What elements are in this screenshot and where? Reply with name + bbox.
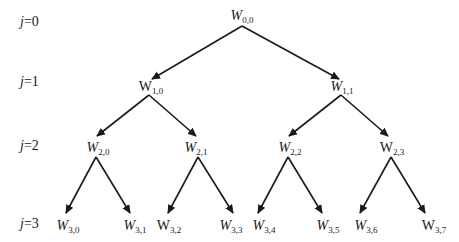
edge-w22-w34 (258, 157, 288, 213)
level-label-j2: j=2 (20, 138, 39, 154)
edge-w20-w31 (96, 157, 130, 213)
node-w32: W3,2 (157, 218, 181, 235)
edge-w22-w35 (288, 157, 322, 213)
tree-edges (0, 0, 459, 242)
edge-w10-w21 (149, 95, 196, 136)
node-w21: W2,1 (185, 140, 208, 157)
edge-w00-w10 (152, 26, 242, 79)
edge-w21-w33 (198, 157, 233, 213)
edge-w11-w23 (341, 95, 388, 136)
node-w36: W3,6 (355, 218, 378, 235)
edge-w00-w11 (242, 26, 339, 79)
node-w22: W2,2 (279, 140, 302, 157)
edge-w20-w30 (66, 157, 96, 213)
node-w31: W3,1 (124, 218, 147, 235)
node-w35: W3,5 (317, 218, 340, 235)
node-w23: W2,3 (380, 140, 404, 157)
level-label-j0: j=0 (20, 14, 39, 30)
node-w11: W1,1 (331, 79, 354, 96)
node-w30: W3,0 (57, 218, 80, 235)
edge-w11-w22 (289, 95, 341, 136)
edge-w23-w37 (391, 157, 425, 213)
edge-w10-w20 (97, 95, 149, 136)
node-w10: W1,0 (139, 79, 163, 96)
node-w37: W3,7 (422, 218, 446, 235)
node-w33: W3,3 (220, 218, 243, 235)
level-label-j1: j=1 (20, 74, 39, 90)
level-label-j3: j=3 (20, 216, 39, 232)
edge-w23-w36 (360, 157, 391, 213)
node-w20: W2,0 (87, 140, 110, 157)
edge-w21-w32 (168, 157, 198, 213)
node-w00: W0,0 (231, 8, 254, 25)
node-w34: W3,4 (253, 218, 276, 235)
